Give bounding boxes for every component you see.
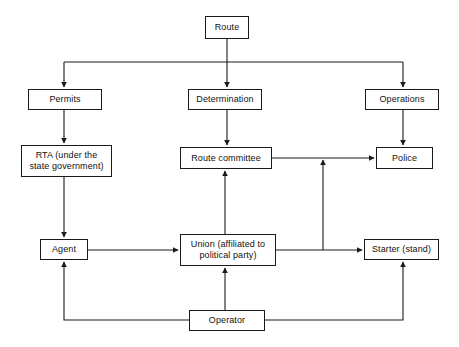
node-agent-label: Agent <box>50 244 78 255</box>
node-route-label: Route <box>213 22 242 33</box>
node-route-committee[interactable]: Route committee <box>180 147 272 169</box>
node-union-label: Union (affiliated to political party) <box>189 239 267 261</box>
node-agent[interactable]: Agent <box>40 239 88 260</box>
node-operations[interactable]: Operations <box>365 89 439 110</box>
node-police[interactable]: Police <box>376 147 433 169</box>
node-operator[interactable]: Operator <box>189 310 265 331</box>
node-determination-label: Determination <box>194 94 255 105</box>
node-operations-label: Operations <box>377 94 426 105</box>
node-determination[interactable]: Determination <box>188 89 262 110</box>
node-starter-label: Starter (stand) <box>370 244 433 255</box>
node-permits[interactable]: Permits <box>28 89 102 110</box>
node-permits-label: Permits <box>47 94 82 105</box>
node-operator-label: Operator <box>207 315 247 326</box>
node-starter[interactable]: Starter (stand) <box>364 239 439 260</box>
node-police-label: Police <box>390 153 419 164</box>
edge-operator-to-agent <box>64 262 189 320</box>
node-route-committee-label: Route committee <box>189 153 263 164</box>
node-union[interactable]: Union (affiliated to political party) <box>180 234 276 266</box>
flowchart-diagram: Route Permits Determination Operations R… <box>0 0 459 347</box>
node-route[interactable]: Route <box>205 16 249 39</box>
node-rta[interactable]: RTA (under the state government) <box>21 145 112 177</box>
node-rta-label: RTA (under the state government) <box>27 150 105 172</box>
edge-operator-to-starter <box>265 262 403 320</box>
